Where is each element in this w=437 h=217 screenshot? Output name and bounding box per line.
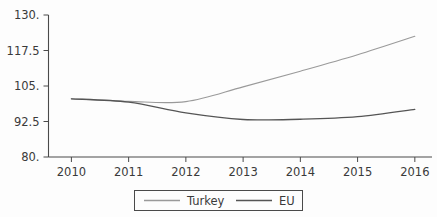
x-tick-label: 2015 xyxy=(343,165,372,179)
x-tick-label: 2014 xyxy=(286,165,315,179)
y-tick-label: 80. xyxy=(21,150,39,164)
series-line-eu xyxy=(71,99,414,120)
x-tick-label: 2013 xyxy=(228,165,257,179)
x-tick-label: 2016 xyxy=(400,165,429,179)
y-tick-label: 105. xyxy=(14,79,40,93)
legend-label-eu: EU xyxy=(279,194,295,208)
series-group xyxy=(71,36,414,120)
y-tick-label: 92.5 xyxy=(14,115,40,129)
y-axis-ticks: 80.92.5105.117.5130. xyxy=(7,8,49,164)
y-tick-label: 117.5 xyxy=(7,44,40,58)
x-axis-ticks: 2010201120122013201420152016 xyxy=(57,157,430,179)
y-tick-label: 130. xyxy=(14,8,40,22)
x-tick-label: 2010 xyxy=(57,165,86,179)
line-chart: 80.92.5105.117.5130. 2010201120122013201… xyxy=(0,0,437,217)
x-tick-label: 2012 xyxy=(171,165,200,179)
axes-group xyxy=(49,15,433,157)
chart-legend: Turkey EU xyxy=(135,191,303,211)
legend-label-turkey: Turkey xyxy=(186,194,225,208)
chart-canvas: 80.92.5105.117.5130. 2010201120122013201… xyxy=(0,0,437,217)
series-line-turkey xyxy=(71,36,414,102)
x-tick-label: 2011 xyxy=(114,165,143,179)
